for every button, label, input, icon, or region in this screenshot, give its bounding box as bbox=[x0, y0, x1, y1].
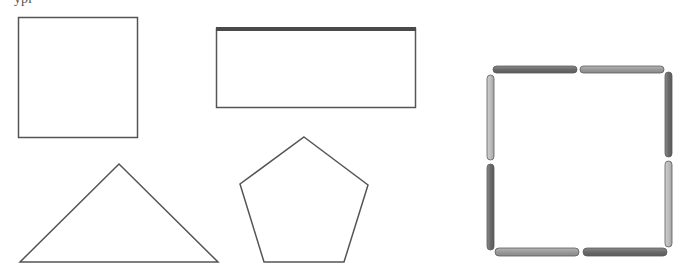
stick-left-upper bbox=[487, 75, 494, 160]
stick-top-right bbox=[580, 66, 664, 73]
stick-bottom-right bbox=[583, 248, 667, 256]
square-shape bbox=[19, 18, 138, 138]
pentagon-shape bbox=[240, 137, 368, 262]
triangle-shape bbox=[20, 164, 218, 262]
stick-top-left bbox=[493, 66, 577, 73]
stick-right-lower bbox=[665, 161, 672, 247]
stick-bottom-left bbox=[495, 248, 579, 256]
rectangle-shape bbox=[216, 27, 416, 108]
stick-right-upper bbox=[665, 72, 672, 157]
matchstick-square bbox=[487, 66, 672, 256]
stick-left-lower bbox=[487, 164, 494, 250]
shapes-diagram bbox=[0, 0, 684, 280]
